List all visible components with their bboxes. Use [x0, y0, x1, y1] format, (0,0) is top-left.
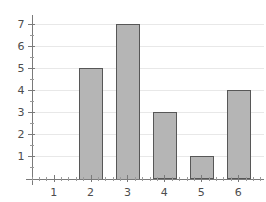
- x-tick-label-2: 2: [87, 186, 94, 199]
- x-tick-label-1: 1: [50, 186, 57, 199]
- y-axis-ticks-group: [28, 25, 35, 168]
- x-axis-tick-labels: 123456: [50, 186, 242, 199]
- y-tick-label-3: 3: [18, 106, 25, 119]
- x-tick-label-4: 4: [161, 186, 168, 199]
- y-tick-label-6: 6: [18, 40, 25, 53]
- x-tick-label-3: 3: [124, 186, 131, 199]
- y-tick-label-2: 2: [18, 128, 25, 141]
- y-tick-label-1: 1: [18, 150, 25, 163]
- x-axis-ticks-group: [33, 175, 261, 182]
- bar-4: [154, 113, 177, 179]
- bar-chart-figure: 1234567 123456: [0, 0, 266, 202]
- y-tick-label-4: 4: [18, 84, 25, 97]
- y-tick-label-7: 7: [18, 18, 25, 31]
- bar-3: [117, 25, 140, 180]
- x-tick-label-5: 5: [198, 186, 205, 199]
- y-tick-label-5: 5: [18, 62, 25, 75]
- chart-canvas: 1234567 123456: [0, 0, 266, 202]
- y-axis-tick-labels: 1234567: [18, 18, 25, 164]
- x-tick-label-6: 6: [235, 186, 242, 199]
- bar-2: [80, 69, 103, 180]
- bar-6: [228, 91, 251, 179]
